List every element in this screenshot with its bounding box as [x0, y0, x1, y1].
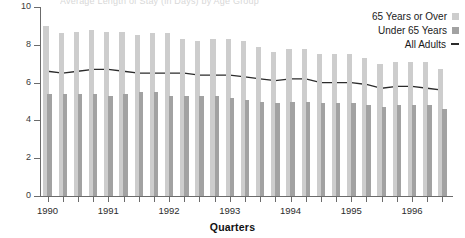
x-axis-tick	[412, 197, 413, 202]
x-axis-tick	[184, 197, 185, 202]
bar-under65	[78, 94, 82, 196]
bar-under65	[427, 105, 431, 196]
x-axis-tick	[397, 197, 398, 202]
bar-under65	[382, 107, 386, 196]
y-axis-tick	[34, 83, 40, 84]
x-axis-tick	[124, 197, 125, 202]
x-axis-year-label: 1990	[37, 205, 58, 216]
x-axis-tick	[48, 197, 49, 202]
bar-under65	[215, 96, 219, 196]
x-axis-tick	[351, 197, 352, 202]
chart-legend: 65 Years or Over Under 65 Years All Adul…	[279, 10, 459, 52]
bar-under65	[321, 103, 325, 196]
bar-under65	[199, 96, 203, 196]
legend-line-marker-icon	[451, 43, 459, 45]
bar-under65	[184, 96, 188, 196]
x-axis-tick	[366, 197, 367, 202]
chart-container: Average Length of Stay (in Days) by Age …	[0, 0, 465, 238]
x-axis-tick	[215, 197, 216, 202]
x-axis-year-label: 1991	[98, 205, 119, 216]
bar-under65	[336, 103, 340, 196]
legend-item-over65: 65 Years or Over	[279, 10, 459, 22]
x-axis-tick	[139, 197, 140, 202]
y-axis-tick	[34, 7, 40, 8]
x-axis-tick	[108, 197, 109, 202]
bar-under65	[154, 92, 158, 196]
bar-under65	[260, 102, 264, 197]
x-axis-year-label: 1993	[219, 205, 240, 216]
x-axis-year-label: 1994	[280, 205, 301, 216]
bar-under65	[442, 109, 446, 196]
x-axis-year-label: 1996	[401, 205, 422, 216]
x-axis-tick	[78, 197, 79, 202]
legend-swatch-over65-icon	[452, 13, 459, 20]
legend-swatch-under65-icon	[452, 27, 459, 34]
y-axis-tick	[34, 45, 40, 46]
x-axis-tick	[275, 197, 276, 202]
x-axis-tick	[291, 197, 292, 202]
x-axis-tick	[442, 197, 443, 202]
x-axis-tick	[169, 197, 170, 202]
x-axis-tick	[93, 197, 94, 202]
bar-under65	[306, 102, 310, 197]
x-axis-tick	[154, 197, 155, 202]
bar-under65	[139, 92, 143, 196]
y-axis-tick	[34, 158, 40, 159]
x-axis-tick	[382, 197, 383, 202]
y-axis-tick-label: 10	[1, 2, 31, 11]
legend-label-under65: Under 65 Years	[378, 25, 447, 36]
bar-under65	[93, 94, 97, 196]
bar-under65	[169, 96, 173, 196]
x-axis-tick	[199, 197, 200, 202]
bar-under65	[245, 100, 249, 196]
legend-item-all-adults: All Adults	[279, 38, 459, 50]
y-axis-tick-label: 6	[1, 78, 31, 87]
legend-item-under65: Under 65 Years	[279, 24, 459, 36]
bar-under65	[230, 98, 234, 196]
x-axis-tick	[306, 197, 307, 202]
y-axis-tick-label: 0	[1, 191, 31, 200]
x-axis-tick	[230, 197, 231, 202]
x-axis-tick	[321, 197, 322, 202]
bar-under65	[351, 103, 355, 196]
bar-under65	[47, 94, 51, 196]
x-axis-year-label: 1995	[341, 205, 362, 216]
bar-under65	[275, 103, 279, 196]
bar-under65	[397, 105, 401, 196]
y-axis-tick	[34, 120, 40, 121]
bar-under65	[366, 105, 370, 196]
x-axis-line	[40, 196, 453, 197]
x-axis-tick	[260, 197, 261, 202]
x-axis-tick	[63, 197, 64, 202]
y-axis-tick-label: 8	[1, 40, 31, 49]
chart-title-clipped: Average Length of Stay (in Days) by Age …	[60, 0, 390, 6]
legend-label-all-adults: All Adults	[405, 39, 446, 50]
x-axis-year-label: 1992	[158, 205, 179, 216]
y-axis-tick	[34, 196, 40, 197]
bar-under65	[108, 96, 112, 196]
y-axis-tick-label: 2	[1, 153, 31, 162]
x-axis-tick	[336, 197, 337, 202]
x-axis-title: Quarters	[0, 221, 465, 233]
x-axis-tick	[427, 197, 428, 202]
legend-label-over65: 65 Years or Over	[372, 11, 447, 22]
y-axis-tick-label: 4	[1, 115, 31, 124]
x-axis-tick	[245, 197, 246, 202]
bar-under65	[412, 105, 416, 196]
bar-under65	[123, 94, 127, 196]
bar-under65	[290, 102, 294, 197]
bar-under65	[63, 94, 67, 196]
